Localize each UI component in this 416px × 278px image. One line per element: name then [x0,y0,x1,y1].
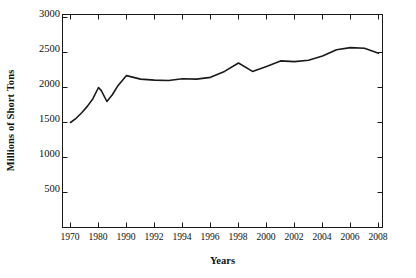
x-axis-tick-labels: 1970 1980 1990 1992 1994 1996 1998 2000 … [0,231,416,249]
x-axis-title: Years [62,255,383,266]
plot-frame [63,15,383,228]
chart-figure: Millions of Short Tons 3000 2500 2000 15… [0,0,416,278]
x-tick-label: 2008 [358,231,398,243]
